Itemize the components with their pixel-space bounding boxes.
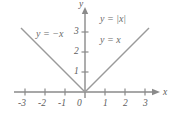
absolute-value-graph-figure: y x -3 -2 -1 0 1 2 3 1 2 3 y = −x y = |x… (0, 0, 175, 125)
plot-area (0, 0, 175, 125)
x-tick-label-3: 3 (143, 99, 148, 109)
x-axis-label: x (163, 88, 167, 98)
curve-label-left: y = −x (36, 29, 63, 39)
x-axis-arrowhead (152, 89, 160, 95)
x-tick-label-1: 1 (103, 99, 108, 109)
curve-label-main: y = |x| (100, 14, 126, 24)
x-tick-label-2: 2 (123, 99, 128, 109)
y-tick-label-1: 1 (74, 67, 79, 77)
y-tick-label-3: 3 (74, 27, 79, 37)
y-axis-label: y (79, 0, 83, 10)
curve-label-right: y = x (100, 35, 121, 45)
x-tick-label-neg3: -3 (18, 99, 26, 109)
y-tick-label-2: 2 (74, 47, 79, 57)
x-tick-label-neg2: -2 (38, 99, 46, 109)
x-tick-label-neg1: -1 (58, 99, 66, 109)
x-tick-label-zero: 0 (77, 99, 82, 109)
